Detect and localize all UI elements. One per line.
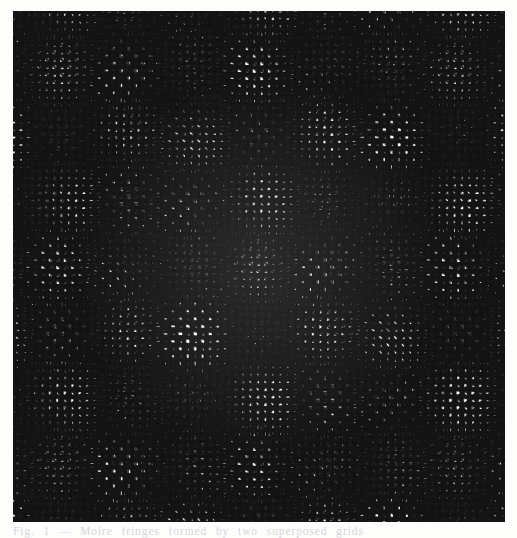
moire-beat-layer bbox=[13, 11, 505, 522]
moire-figure-plate bbox=[13, 11, 505, 522]
figure-caption-strip: Fig. 1 — Moire fringes formed by two sup… bbox=[13, 527, 505, 538]
moire-layer-stack bbox=[13, 11, 505, 522]
figure-caption: Fig. 1 — Moire fringes formed by two sup… bbox=[13, 527, 364, 537]
figure-page: Fig. 1 — Moire fringes formed by two sup… bbox=[0, 0, 517, 538]
